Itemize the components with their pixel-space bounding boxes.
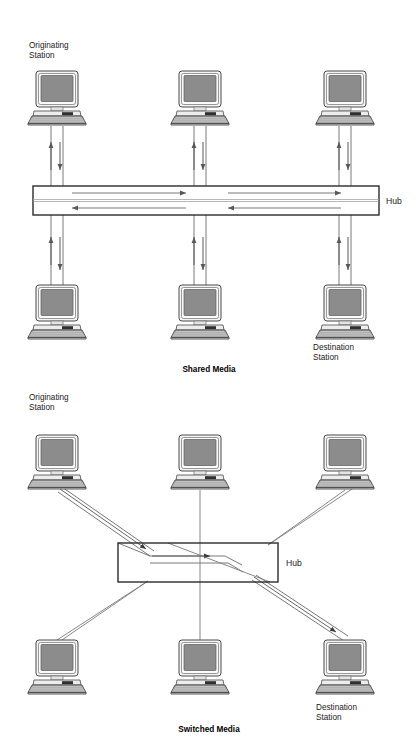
- network-diagram: Originating Station Destination Station …: [0, 0, 418, 755]
- diagram-canvas: Originating Station Destination Station …: [0, 0, 418, 755]
- workstation-top-right[interactable]: [316, 71, 374, 125]
- shared-media-caption: Shared Media: [182, 365, 236, 374]
- workstation-bottom-middle[interactable]: [171, 285, 229, 339]
- switched-workstation-bottom-middle[interactable]: [171, 640, 229, 694]
- switched-originating-label-line2: Station: [29, 403, 55, 412]
- shared-destination-label-line1: Destination: [313, 343, 354, 352]
- shared-hub-bar: [33, 186, 379, 215]
- shared-destination-label-line2: Station: [313, 353, 339, 362]
- switched-originating-label-line1: Originating: [29, 393, 69, 402]
- switched-media-caption: Switched Media: [178, 725, 240, 734]
- workstation-destination[interactable]: [316, 285, 374, 339]
- workstation-bottom-left[interactable]: [28, 285, 86, 339]
- shared-originating-label-line1: Originating: [29, 41, 69, 50]
- shared-hub-label: Hub: [386, 196, 402, 206]
- switched-workstation-top-right[interactable]: [316, 435, 374, 489]
- switched-workstation-top-middle[interactable]: [171, 435, 229, 489]
- shared-originating-label-line2: Station: [29, 51, 55, 60]
- workstation-originating[interactable]: [28, 71, 86, 125]
- switched-hub-label: Hub: [286, 558, 302, 568]
- switched-workstation-originating[interactable]: [28, 435, 86, 489]
- switched-destination-label-line2: Station: [316, 713, 342, 722]
- switched-destination-label-line1: Destination: [316, 703, 357, 712]
- switched-workstation-destination[interactable]: [316, 640, 374, 694]
- switched-workstation-bottom-left[interactable]: [28, 640, 86, 694]
- workstation-top-middle[interactable]: [171, 71, 229, 125]
